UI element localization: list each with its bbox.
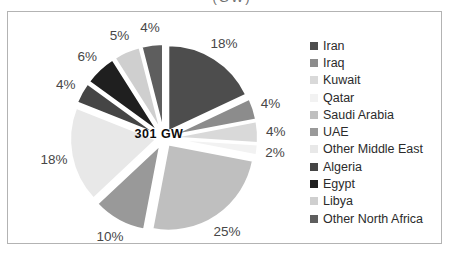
pie-center-label: 301 GW — [135, 127, 184, 141]
legend-swatch — [310, 180, 318, 188]
legend-item-egypt: Egypt — [310, 175, 438, 192]
slice-label-iran: 18% — [210, 36, 237, 51]
slice-label-other-north-africa: 4% — [140, 19, 160, 34]
legend-label: Other North Africa — [323, 212, 423, 226]
legend-item-qatar: Qatar — [310, 89, 438, 106]
legend-swatch — [310, 215, 318, 223]
legend-item-iran: Iran — [310, 37, 438, 54]
legend-swatch — [310, 197, 318, 205]
legend-label: Iran — [323, 39, 345, 53]
legend-item-kuwait: Kuwait — [310, 72, 438, 89]
legend-label: Saudi Arabia — [323, 108, 394, 122]
chart-page: (GW) 18%4%4%2%25%10%18%4%6%5%4% 301 GW I… — [0, 0, 456, 258]
slice-label-iraq: 4% — [261, 96, 281, 111]
legend-swatch — [310, 59, 318, 67]
cropped-chart-title-text: (GW) — [158, 0, 306, 5]
legend-item-other-north-africa: Other North Africa — [310, 210, 438, 227]
legend-item-iraq: Iraq — [310, 54, 438, 71]
legend-item-libya: Libya — [310, 193, 438, 210]
chart-frame: 18%4%4%2%25%10%18%4%6%5%4% 301 GW IranIr… — [7, 11, 442, 244]
cropped-chart-title: (GW) — [158, 0, 306, 5]
legend-label: Iraq — [323, 56, 345, 70]
legend-label: Qatar — [323, 91, 354, 105]
slice-label-algeria: 4% — [56, 77, 76, 92]
slice-label-other-middle-east: 18% — [40, 151, 67, 166]
legend-item-algeria: Algeria — [310, 158, 438, 175]
legend-item-other-middle-east: Other Middle East — [310, 141, 438, 158]
legend-label: Libya — [323, 194, 353, 208]
legend-swatch — [310, 111, 318, 119]
legend-swatch — [310, 145, 318, 153]
legend: IranIraqKuwaitQatarSaudi ArabiaUAEOther … — [310, 37, 438, 227]
legend-swatch — [310, 76, 318, 84]
legend-swatch — [310, 128, 318, 136]
legend-item-saudi-arabia: Saudi Arabia — [310, 106, 438, 123]
slice-label-kuwait: 4% — [266, 123, 286, 138]
legend-label: Algeria — [323, 160, 362, 174]
slice-label-libya: 5% — [110, 28, 130, 43]
slice-label-qatar: 2% — [265, 145, 285, 160]
slice-label-egypt: 6% — [78, 49, 98, 64]
legend-label: Other Middle East — [323, 142, 423, 156]
legend-item-uae: UAE — [310, 123, 438, 140]
legend-label: Kuwait — [323, 73, 361, 87]
legend-swatch — [310, 42, 318, 50]
slice-label-uae: 10% — [97, 229, 124, 244]
legend-swatch — [310, 163, 318, 171]
legend-label: Egypt — [323, 177, 355, 191]
legend-label: UAE — [323, 125, 349, 139]
legend-swatch — [310, 94, 318, 102]
pie-slice-saudi-arabia — [152, 145, 253, 231]
slice-label-saudi-arabia: 25% — [213, 223, 240, 238]
